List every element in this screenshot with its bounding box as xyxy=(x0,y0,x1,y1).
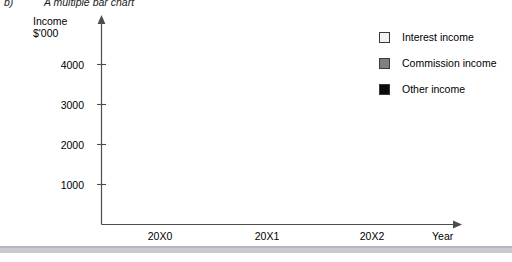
y-tick-label-4000: 4000 xyxy=(38,59,84,71)
x-axis-arrow-icon xyxy=(453,221,462,229)
x-tick-label-20x1: 20X1 xyxy=(239,230,295,242)
legend-item-commission-income: Commission income xyxy=(379,54,497,72)
y-tick-label-2000: 2000 xyxy=(38,139,84,151)
legend-label-commission-income: Commission income xyxy=(402,57,497,69)
chart-legend: Interest income Commission income Other … xyxy=(379,28,497,106)
page-footer-band-edge xyxy=(0,246,512,248)
bar-chart: Income $'000 4000 3000 2000 1000 20X0 20… xyxy=(0,0,512,240)
y-axis-title: Income $'000 xyxy=(33,16,67,39)
y-axis-title-line1: Income xyxy=(33,16,67,28)
x-axis-title: Year xyxy=(432,230,453,242)
legend-item-other-income: Other income xyxy=(379,80,497,98)
legend-label-interest-income: Interest income xyxy=(402,31,474,43)
x-tick-label-20x2: 20X2 xyxy=(344,230,400,242)
legend-item-interest-income: Interest income xyxy=(379,28,497,46)
legend-label-other-income: Other income xyxy=(402,83,465,95)
y-axis-title-line2: $'000 xyxy=(33,28,67,40)
legend-swatch-icon-commission-income xyxy=(379,58,390,69)
legend-swatch-icon-interest-income xyxy=(379,32,390,43)
y-tick-label-3000: 3000 xyxy=(38,99,84,111)
y-tick-label-1000: 1000 xyxy=(38,179,84,191)
legend-swatch-icon-other-income xyxy=(379,84,390,95)
y-axis-arrow-icon xyxy=(98,15,106,24)
figure-page: b) A multiple bar chart Income $'000 400… xyxy=(0,0,512,262)
x-tick-label-20x0: 20X0 xyxy=(132,230,188,242)
